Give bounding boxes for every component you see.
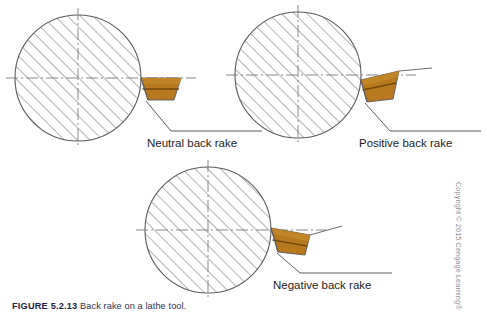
label-negative-back-rake: Negative back rake: [273, 279, 371, 291]
figure-caption-body: Back rake on a lathe tool.: [80, 301, 186, 311]
rake-reference-positive: [399, 68, 432, 71]
cutting-tool-neutral: [141, 78, 181, 100]
leader-negative: [277, 253, 392, 273]
cutting-tool-positive: [361, 71, 399, 102]
leader-positive: [365, 103, 481, 131]
diagram-negative: Negative back rake: [136, 160, 392, 300]
cutting-tool-negative: [271, 228, 310, 255]
figure-container: Neutral back rake Positive back rake: [0, 0, 487, 316]
copyright-notice: Copyright © 2015 Cengage Learning®: [454, 182, 463, 310]
figure-caption: FIGURE 5.2.13 Back rake on a lathe tool.: [12, 301, 186, 311]
label-neutral-back-rake: Neutral back rake: [147, 137, 237, 149]
label-positive-back-rake: Positive back rake: [359, 137, 452, 149]
figure-caption-number: FIGURE 5.2.13: [12, 301, 77, 311]
diagram-positive: Positive back rake: [226, 5, 481, 149]
rake-reference-negative: [310, 226, 342, 235]
back-rake-figure-svg: Neutral back rake Positive back rake: [0, 0, 487, 316]
diagram-neutral: Neutral back rake: [6, 8, 262, 149]
